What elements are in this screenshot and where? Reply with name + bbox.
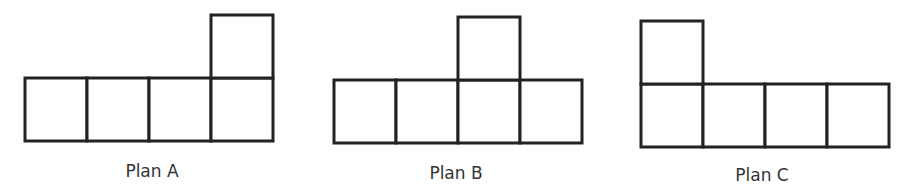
plan-b-square-2 — [396, 80, 458, 143]
plan-a-square-1 — [25, 78, 87, 141]
plan-c-square-2 — [703, 84, 765, 147]
plan-c-square-4 — [827, 84, 889, 147]
plan-b — [334, 17, 582, 143]
plan-c-square-3 — [765, 84, 827, 147]
plan-b-square-4 — [520, 80, 582, 143]
plan-c — [641, 21, 889, 147]
plan-a-square-5 — [211, 15, 273, 78]
plan-b-label: Plan B — [429, 163, 482, 183]
plan-c-label: Plan C — [735, 165, 788, 185]
plan-b-square-1 — [334, 80, 396, 143]
plan-a — [25, 15, 273, 141]
plan-a-label: Plan A — [125, 161, 179, 181]
plan-a-square-3 — [149, 78, 211, 141]
plans-diagram: Plan A Plan B Plan C — [0, 0, 910, 194]
plan-b-square-3 — [458, 80, 520, 143]
plan-a-square-4 — [211, 78, 273, 141]
plan-c-square-1 — [641, 84, 703, 147]
plan-a-square-2 — [87, 78, 149, 141]
plan-b-square-5 — [458, 17, 520, 80]
plan-c-square-5 — [641, 21, 703, 84]
